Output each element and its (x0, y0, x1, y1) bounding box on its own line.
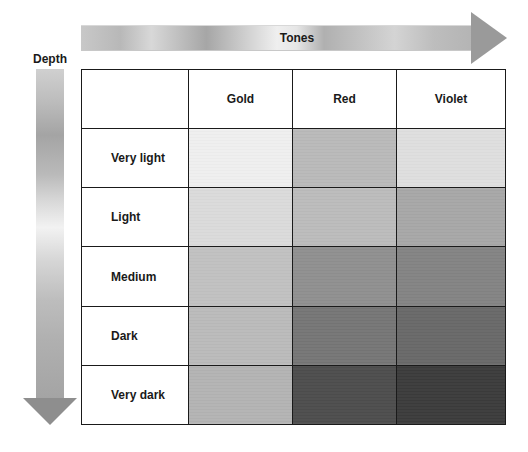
tone-depth-table: Gold Red Violet Very light Light Medium … (81, 69, 506, 425)
tones-label: Tones (280, 31, 314, 45)
swatch-very-dark-gold (189, 365, 293, 424)
table-row: Dark (82, 306, 506, 365)
table-row: Very dark (82, 365, 506, 424)
tones-arrow: Tones (81, 12, 508, 66)
row-label: Medium (82, 247, 189, 306)
arrow-right-icon (471, 12, 507, 64)
row-label: Light (82, 188, 189, 247)
table-row: Very light (82, 129, 506, 188)
swatch-very-light-gold (189, 129, 293, 188)
tones-arrow-shaft: Tones (81, 25, 473, 51)
table-row: Light (82, 188, 506, 247)
column-header-red: Red (293, 70, 397, 129)
header-row: Gold Red Violet (82, 70, 506, 129)
swatch-medium-violet (397, 247, 506, 306)
row-label: Dark (82, 306, 189, 365)
corner-cell (82, 70, 189, 129)
swatch-dark-violet (397, 306, 506, 365)
swatch-very-light-violet (397, 129, 506, 188)
row-label: Very dark (82, 365, 189, 424)
swatch-very-dark-violet (397, 365, 506, 424)
column-header-gold: Gold (189, 70, 293, 129)
swatch-very-dark-red (293, 365, 397, 424)
depth-label: Depth (33, 52, 67, 66)
arrow-down-icon (23, 398, 77, 425)
swatch-dark-red (293, 306, 397, 365)
swatch-medium-red (293, 247, 397, 306)
swatch-medium-gold (189, 247, 293, 306)
swatch-light-violet (397, 188, 506, 247)
swatch-very-light-red (293, 129, 397, 188)
row-label: Very light (82, 129, 189, 188)
column-header-violet: Violet (397, 70, 506, 129)
depth-arrow-shaft (36, 69, 64, 399)
swatch-light-gold (189, 188, 293, 247)
swatch-light-red (293, 188, 397, 247)
table-row: Medium (82, 247, 506, 306)
swatch-dark-gold (189, 306, 293, 365)
